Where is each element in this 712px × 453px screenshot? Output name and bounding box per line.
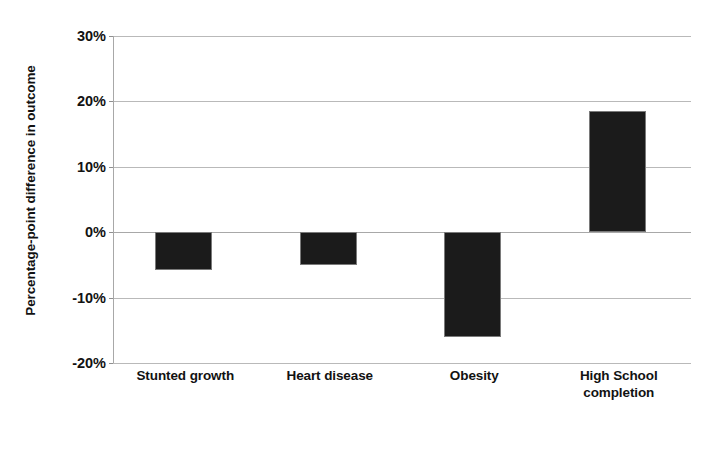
x-axis-category-label: Obesity [402, 368, 547, 385]
y-axis-tick-label: 30% [48, 29, 106, 44]
y-axis-tick-label: -20% [48, 356, 106, 371]
y-axis-tick-label: -10% [48, 290, 106, 305]
x-axis-category-label-line: completion [547, 385, 692, 402]
x-axis-category-label-line: High School [547, 368, 692, 385]
y-axis-tick-labels: 30%20%10%0%-10%-20% [44, 0, 106, 453]
bars-layer [113, 36, 691, 363]
plot-area [113, 36, 691, 363]
y-axis-tick-mark [109, 363, 113, 364]
x-axis-category-label-line: Heart disease [258, 368, 403, 385]
bar [155, 232, 212, 270]
y-axis-tick-label: 10% [48, 160, 106, 175]
x-axis-category-label: Stunted growth [113, 368, 258, 385]
x-axis-category-label-line: Stunted growth [113, 368, 258, 385]
x-axis-category-label: Heart disease [258, 368, 403, 385]
x-axis-category-label: High Schoolcompletion [547, 368, 692, 402]
bar [300, 232, 357, 265]
bar-chart: Percentage-point difference in outcome 3… [0, 0, 712, 453]
x-axis-category-labels: Stunted growthHeart diseaseObesityHigh S… [113, 368, 691, 438]
gridline [113, 363, 691, 364]
y-axis-tick-label: 20% [48, 94, 106, 109]
bar [444, 232, 501, 337]
x-axis-category-label-line: Obesity [402, 368, 547, 385]
bar [589, 111, 646, 232]
y-axis-tick-label: 0% [48, 225, 106, 240]
y-axis-title-text: Percentage-point difference in outcome [23, 65, 38, 316]
